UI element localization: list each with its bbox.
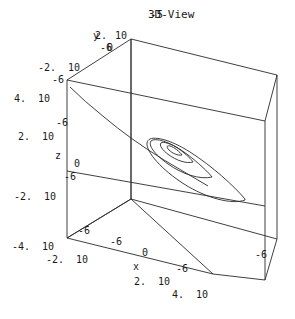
box-edge-bottom-left <box>67 238 213 274</box>
box-edge-top-left <box>67 39 131 80</box>
ztick-10-c: 10 <box>44 192 56 202</box>
xtick-2: 2. <box>134 277 146 287</box>
xtick-neg2: -2. <box>46 255 64 265</box>
xtick-10-a: 10 <box>42 242 54 252</box>
xtick-neg6-c: -6 <box>255 250 267 260</box>
box-edge-bottom-right <box>213 274 265 280</box>
ztick-10-a: 10 <box>38 94 50 104</box>
plot-window: 3D-View-5y2.10-60-2.10-64.10-62.10z0-6-2… <box>0 0 295 319</box>
box-edge-top-back-left <box>131 39 277 75</box>
spiral-loop-inner <box>160 142 193 162</box>
xtick-neg4: -4. <box>12 242 30 252</box>
title-overlap: -5 <box>150 9 163 20</box>
xtick-neg6-b: -6 <box>176 264 188 274</box>
box-edge-top-right <box>265 75 277 121</box>
ytick-2: 2. <box>95 31 107 41</box>
ytick-0: 0 <box>107 43 113 53</box>
ztick-0: 0 <box>74 159 80 169</box>
xtick-10-c: 10 <box>158 277 170 287</box>
ztick-neg6-a: -6 <box>56 118 68 128</box>
ztick-neg2: -2. <box>14 192 32 202</box>
xtick-neg6-a: -6 <box>78 226 90 236</box>
ytick-neg6-b: -6 <box>52 75 64 85</box>
ytick-neg2: -2. <box>38 63 56 73</box>
ztick-10-b: 10 <box>42 132 54 142</box>
xtick-0: 0 <box>142 248 148 258</box>
ztick-2: 2. <box>18 132 30 142</box>
xtick-10-d: 10 <box>196 290 208 300</box>
ztick-neg6-c: -6 <box>110 237 122 247</box>
interior-axes <box>67 39 265 274</box>
ytick-10: 10 <box>115 31 127 41</box>
tail-curve <box>70 87 208 186</box>
spiral-loop-core <box>167 146 182 155</box>
spiral-curve <box>147 138 245 201</box>
xtick-4: 4. <box>172 290 184 300</box>
ztick-4: 4. <box>14 94 26 104</box>
plot-canvas <box>0 0 295 319</box>
axis-name-z: z <box>55 151 61 161</box>
ztick-neg6-b: -6 <box>64 172 76 182</box>
box-edge-top-front <box>67 80 265 121</box>
bounding-box-wireframe <box>67 39 277 280</box>
axis-name-x: x <box>133 262 139 272</box>
xtick-10-b: 10 <box>76 255 88 265</box>
axis-line-y <box>67 199 131 238</box>
spiral-loop-middle <box>150 140 212 178</box>
ytick-10-b: 10 <box>68 63 80 73</box>
